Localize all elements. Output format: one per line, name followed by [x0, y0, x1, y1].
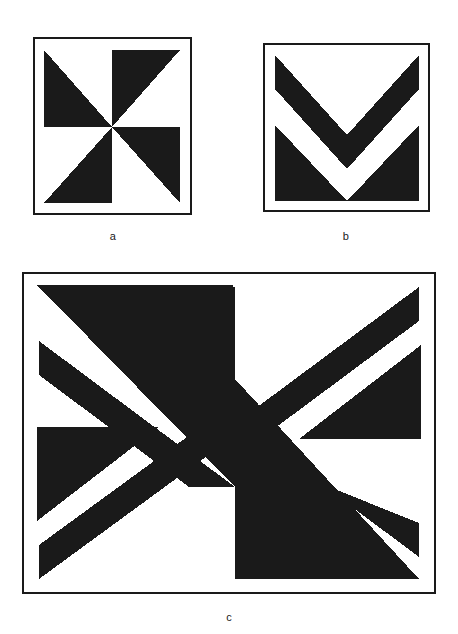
panel-b-artwork [269, 49, 424, 206]
panel-c-caption: c [199, 612, 259, 623]
panel-a-caption: a [83, 231, 143, 242]
panel-a-artwork [39, 43, 186, 209]
panel-b-caption: b [316, 231, 376, 242]
panel-b [263, 43, 430, 212]
panel-c [22, 272, 436, 594]
figure-root: a b [0, 0, 458, 634]
panel-a [33, 37, 192, 215]
panel-c-artwork [29, 279, 429, 587]
